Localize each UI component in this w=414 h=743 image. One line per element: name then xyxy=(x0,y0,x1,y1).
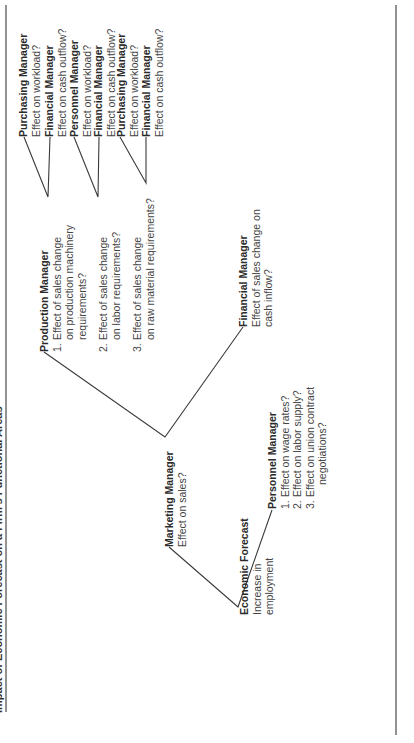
node-title: Financial Manager xyxy=(237,209,250,327)
list-item: 3.Effect on union contract xyxy=(304,387,317,509)
node-financial-manager-sales: Financial Manager Effect of sales change… xyxy=(237,209,275,327)
node-title: Production Manager xyxy=(38,198,51,352)
leaf-personnel-manager: Personnel Manager Effect on workload? xyxy=(68,40,93,137)
figure-title: Impact of Economic Forecast on a Firm's … xyxy=(0,406,4,713)
list-item: 1.Effect on wage rates? xyxy=(279,387,292,509)
list-item: 3.Effect of sales changeon raw material … xyxy=(131,198,156,352)
node-personnel-manager: Personnel Manager 1.Effect on wage rates… xyxy=(266,387,329,509)
node-desc: cash inflow? xyxy=(262,209,275,327)
node-production-manager: Production Manager 1.Effect of sales cha… xyxy=(38,198,156,352)
node-marketing-manager: Marketing Manager Effect on sales? xyxy=(163,451,188,547)
leaf-financial-manager-1: Financial Manager Effect on cash outflow… xyxy=(43,29,68,137)
node-desc: Effect on sales? xyxy=(176,451,189,547)
node-economic-forecast: Economic Forecast Increase in employment xyxy=(238,518,276,615)
leaf-purchasing-manager-2: Purchasing Manager Effect on workload? xyxy=(115,34,140,137)
node-title: Personnel Manager xyxy=(266,387,279,509)
node-desc: Effect of sales change on xyxy=(250,209,263,327)
diagram-canvas: Impact of Economic Forecast on a Firm's … xyxy=(0,0,414,743)
list-item: 2.Effect on labor supply? xyxy=(291,387,304,509)
node-desc: Increase in xyxy=(251,518,264,615)
leaf-financial-manager-2: Financial Manager Effect on cash outflow… xyxy=(92,29,117,137)
leaf-financial-manager-3: Financial Manager Effect on cash outflow… xyxy=(140,29,165,137)
leaf-purchasing-manager-1: Purchasing Manager Effect on workload? xyxy=(17,34,42,137)
node-title: Marketing Manager xyxy=(163,451,176,547)
node-desc: employment xyxy=(263,518,276,615)
node-title: Economic Forecast xyxy=(238,518,251,615)
list-item: negotiations? xyxy=(316,387,329,509)
list-item: 2.Effect of sales changeon labor require… xyxy=(97,198,122,352)
list-item: 1.Effect of sales changeon production ma… xyxy=(51,198,89,352)
